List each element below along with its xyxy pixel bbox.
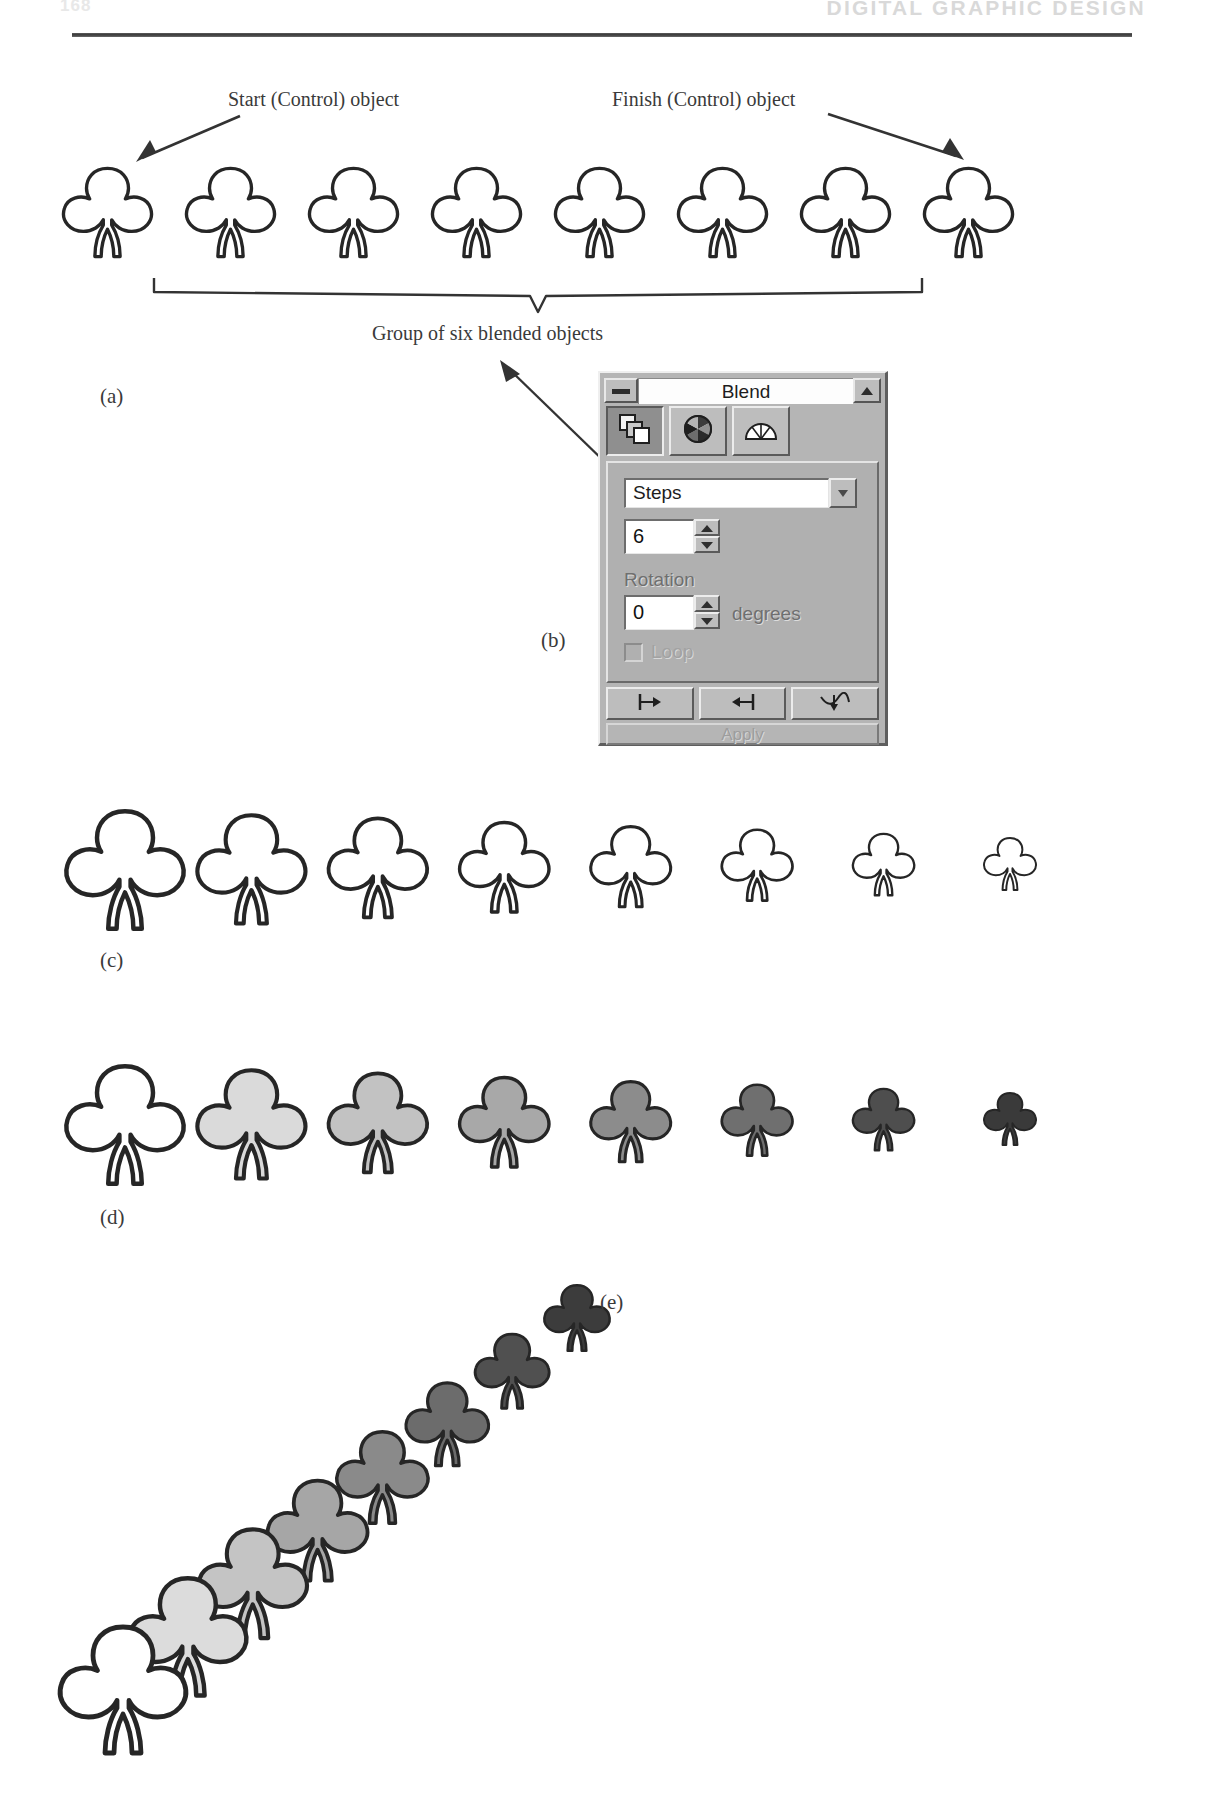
panel-c-shamrock-4[interactable] (583, 819, 678, 914)
loop-checkbox[interactable] (624, 643, 643, 662)
fan-gauge-icon (743, 415, 779, 447)
rotation-input[interactable]: 0 (624, 595, 694, 630)
group-brace (150, 272, 930, 318)
apply-button[interactable]: Apply (606, 723, 879, 745)
panel-c-shamrock-2[interactable] (319, 809, 437, 927)
panel-c-shamrock-7[interactable] (979, 833, 1041, 895)
panel-a-shamrock-3[interactable] (424, 160, 529, 265)
stacked-pages-icon (618, 413, 652, 449)
panel-a-shamrock-6[interactable] (793, 160, 898, 265)
color-wheel-icon (682, 413, 714, 449)
spinner-up-icon[interactable] (694, 595, 720, 612)
panel-d-shamrock-7[interactable] (979, 1088, 1041, 1150)
panel-letter-d: (d) (100, 1205, 125, 1230)
panel-letter-e: (e) (600, 1290, 623, 1315)
rotation-label: Rotation (624, 569, 695, 591)
dialog-button-row (606, 687, 879, 720)
spinner-down-icon[interactable] (694, 536, 720, 553)
maximize-triangle-icon[interactable] (853, 378, 881, 403)
panel-d-shamrock-2[interactable] (319, 1064, 437, 1182)
header-rule (72, 33, 1132, 37)
spinner-down-icon[interactable] (694, 612, 720, 629)
panel-a-shamrock-1[interactable] (178, 160, 283, 265)
tab-acceleration[interactable] (732, 406, 790, 456)
panel-a-shamrock-7[interactable] (916, 160, 1021, 265)
panel-d-shamrock-5[interactable] (715, 1078, 799, 1162)
running-head: 168 DIGITAL GRAPHIC DESIGN (0, 0, 1208, 22)
rotation-spinner (694, 595, 720, 630)
panel-c-shamrock-6[interactable] (847, 828, 920, 901)
dialog-title: Blend (638, 378, 853, 404)
group-of-six-blended-label: Group of six blended objects (372, 322, 603, 345)
tab-color[interactable] (669, 406, 727, 456)
path-button[interactable] (791, 687, 879, 720)
steps-spinner (694, 519, 720, 554)
chevron-down-icon[interactable] (829, 478, 857, 508)
blend-mode-value: Steps (624, 478, 829, 508)
start-control-object-label: Start (Control) object (228, 88, 399, 111)
panel-d-shamrock-3[interactable] (451, 1069, 558, 1176)
dialog-body: Steps 6 Rotation 0 degrees Loop (606, 461, 879, 683)
loop-checkbox-row[interactable]: Loop (624, 641, 693, 663)
blend-dialog: Blend (598, 371, 888, 746)
finish-control-object-label: Finish (Control) object (612, 88, 795, 111)
panel-c-shamrock-5[interactable] (715, 823, 799, 907)
rotation-unit-label: degrees (732, 603, 801, 625)
panel-letter-c: (c) (100, 948, 123, 973)
steps-input[interactable]: 6 (624, 519, 694, 554)
page-folio: 168 (60, 0, 91, 16)
window-menu-icon[interactable] (604, 378, 638, 403)
blend-mode-select[interactable]: Steps (624, 478, 857, 508)
panel-a-shamrock-5[interactable] (670, 160, 775, 265)
panel-d-shamrock-0[interactable] (55, 1055, 195, 1195)
blend-path-icon (818, 692, 852, 716)
panel-c-shamrock-0[interactable] (55, 800, 195, 940)
end-marker-icon (728, 692, 758, 716)
loop-label: Loop (651, 641, 693, 663)
panel-e-shamrock-0[interactable] (48, 1615, 198, 1765)
dialog-titlebar[interactable]: Blend (604, 377, 881, 404)
panel-c-shamrock-3[interactable] (451, 814, 558, 921)
steps-stepper[interactable]: 6 (624, 519, 720, 554)
panel-d-shamrock-4[interactable] (583, 1074, 678, 1169)
panel-d-shamrock-6[interactable] (847, 1083, 920, 1156)
spinner-up-icon[interactable] (694, 519, 720, 536)
rotation-stepper[interactable]: 0 (624, 595, 720, 630)
panel-letter-a: (a) (100, 384, 123, 409)
end-object-button[interactable] (699, 687, 787, 720)
dialog-tabs (606, 406, 879, 458)
tab-steps[interactable] (606, 406, 664, 456)
running-head-title: DIGITAL GRAPHIC DESIGN (827, 0, 1146, 20)
panel-c-shamrock-1[interactable] (187, 805, 316, 934)
panel-a-shamrock-4[interactable] (547, 160, 652, 265)
start-object-button[interactable] (606, 687, 694, 720)
panel-a-shamrock-0[interactable] (55, 160, 160, 265)
panel-a-shamrock-2[interactable] (301, 160, 406, 265)
panel-letter-b: (b) (541, 628, 566, 653)
start-marker-icon (635, 692, 665, 716)
panel-d-shamrock-1[interactable] (187, 1060, 316, 1189)
